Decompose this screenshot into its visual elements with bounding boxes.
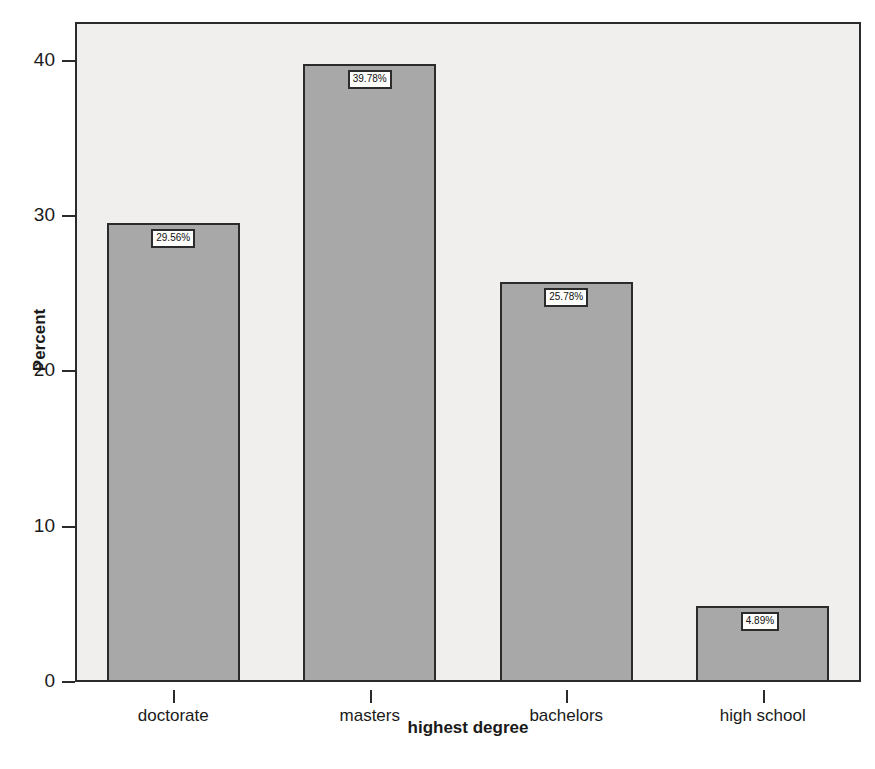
x-axis-title: highest degree bbox=[75, 718, 861, 738]
x-axis-tick-mark bbox=[763, 690, 765, 703]
x-axis-tick-mark bbox=[566, 690, 568, 703]
bar-value-label: 29.56% bbox=[151, 229, 195, 248]
x-axis-tick-mark bbox=[173, 690, 175, 703]
y-axis-tick-label: 20 bbox=[0, 359, 55, 381]
y-axis-tick-label: 40 bbox=[0, 49, 55, 71]
x-axis-tick-mark bbox=[370, 690, 372, 703]
y-axis-tick-mark bbox=[62, 60, 75, 62]
bar-value-label: 4.89% bbox=[741, 612, 779, 631]
y-axis-tick-label: 30 bbox=[0, 204, 55, 226]
y-axis-tick-mark bbox=[62, 215, 75, 217]
y-axis-tick-mark bbox=[62, 370, 75, 372]
bar-value-label: 39.78% bbox=[348, 70, 392, 89]
bar-value-label: 25.78% bbox=[544, 288, 588, 307]
bar bbox=[107, 223, 240, 682]
y-axis-title: Percent bbox=[30, 280, 50, 400]
chart-figure: Percent 010203040 29.56%39.78%25.78%4.89… bbox=[0, 0, 875, 769]
y-axis-tick-mark bbox=[62, 526, 75, 528]
y-axis-tick-label: 10 bbox=[0, 515, 55, 537]
y-axis-tick-mark bbox=[62, 681, 75, 683]
bar bbox=[303, 64, 436, 682]
y-axis-tick-label: 0 bbox=[0, 670, 55, 692]
bar bbox=[500, 282, 633, 682]
